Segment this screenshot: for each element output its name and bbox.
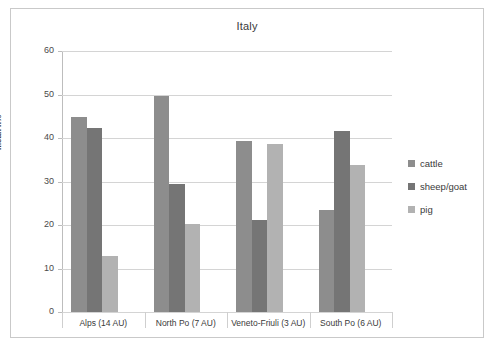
plot-area: [62, 51, 392, 312]
legend-item-cattle[interactable]: cattle: [408, 152, 467, 175]
bar-cattle-1: [154, 96, 170, 312]
chart-figure: Italy mean n% 0102030405060 Alps (14 AU)…: [0, 0, 494, 349]
legend-swatch-icon: [408, 206, 415, 213]
gridline: [62, 95, 392, 96]
gridline: [62, 51, 392, 52]
bar-cattle-2: [236, 141, 252, 312]
x-tick-separator: [62, 312, 63, 328]
chart-title: Italy: [0, 20, 494, 32]
bar-cattle-0: [71, 117, 87, 312]
x-tick-label: South Po (6 AU): [310, 318, 393, 328]
bar-sheep-goat-3: [334, 131, 350, 312]
bar-pig-0: [102, 256, 118, 312]
bar-pig-2: [267, 144, 283, 312]
bar-sheep-goat-2: [252, 220, 268, 312]
chart-legend: cattlesheep/goatpig: [408, 152, 467, 221]
legend-item-sheep-goat[interactable]: sheep/goat: [408, 175, 467, 198]
y-tick-label: 40: [28, 132, 54, 142]
legend-item-pig[interactable]: pig: [408, 198, 467, 221]
y-tick-label: 20: [28, 219, 54, 229]
y-tick-label: 60: [28, 45, 54, 55]
legend-label: pig: [420, 204, 433, 215]
bar-cattle-3: [319, 210, 335, 312]
bar-sheep-goat-0: [87, 128, 103, 312]
y-axis-title: mean n%: [0, 115, 3, 150]
bar-pig-1: [185, 224, 201, 312]
x-tick-separator: [145, 312, 146, 328]
y-tick-label: 0: [28, 306, 54, 316]
bar-pig-3: [350, 165, 366, 312]
x-tick-label: North Po (7 AU): [145, 318, 228, 328]
legend-swatch-icon: [408, 183, 415, 190]
x-tick-separator: [310, 312, 311, 328]
legend-label: cattle: [420, 158, 443, 169]
y-tick-label: 10: [28, 263, 54, 273]
y-tick-label: 50: [28, 89, 54, 99]
legend-label: sheep/goat: [420, 181, 467, 192]
x-tick-label: Alps (14 AU): [62, 318, 145, 328]
bar-sheep-goat-1: [169, 184, 185, 312]
y-tick-label: 30: [28, 176, 54, 186]
x-tick-separator: [392, 312, 393, 328]
x-tick-label: Veneto-Friuli (3 AU): [227, 318, 310, 328]
x-tick-separator: [227, 312, 228, 328]
legend-swatch-icon: [408, 160, 415, 167]
